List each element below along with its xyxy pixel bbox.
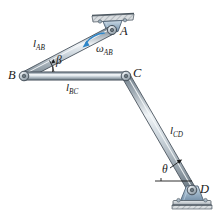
linkage-drawing xyxy=(0,0,221,214)
angle-label-theta: θ xyxy=(162,164,168,176)
bar-BC xyxy=(24,72,126,80)
point-label-D: D xyxy=(200,183,209,196)
omega-label-AB: ωAB xyxy=(96,43,113,57)
link-label-AB-sub: AB xyxy=(36,44,45,52)
link-label-BC-sub: BC xyxy=(69,88,78,96)
joint-A xyxy=(107,25,116,34)
linkage-figure: A B C D lAB lBC lCD β θ ωAB xyxy=(0,0,221,214)
joint-C xyxy=(121,71,131,81)
joint-B xyxy=(19,71,29,81)
link-label-CD: lCD xyxy=(170,125,183,139)
link-BC xyxy=(24,72,126,80)
point-label-A: A xyxy=(120,25,128,38)
point-label-C: C xyxy=(133,67,141,80)
link-label-CD-sub: CD xyxy=(173,131,183,139)
angle-label-beta: β xyxy=(56,55,62,67)
link-CD xyxy=(122,74,195,192)
omega-symbol: ω xyxy=(96,42,104,54)
link-label-AB: lAB xyxy=(33,38,45,52)
link-label-BC: lBC xyxy=(66,82,78,96)
point-label-B: B xyxy=(8,69,16,82)
omega-subscript: AB xyxy=(104,49,113,57)
